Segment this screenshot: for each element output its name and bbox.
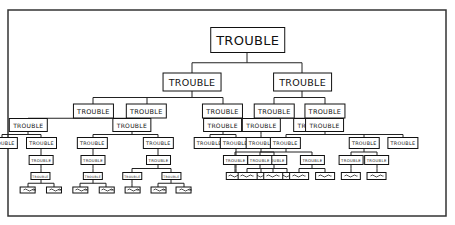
- trouble-node: TROUBLE: [73, 104, 113, 118]
- trouble-node-label: TROUBLE: [116, 122, 147, 129]
- trouble-node-label: TROUBLE: [168, 77, 216, 88]
- trouble-node: [125, 187, 140, 193]
- trouble-node: TROUBLE: [83, 173, 102, 180]
- trouble-node-label: TROUBLE: [308, 108, 342, 116]
- trouble-node-label: TROUBLE: [196, 141, 222, 146]
- trouble-node-label: TROUBLE: [162, 175, 179, 179]
- trouble-node: TROUBLE: [27, 138, 57, 149]
- trouble-node-label: TROUBLE: [340, 158, 361, 163]
- trouble-node: [341, 173, 360, 180]
- trouble-node: TROUBLE: [147, 156, 171, 165]
- trouble-node-label: TROUBLE: [272, 141, 298, 146]
- trouble-node: TROUBLE: [194, 138, 224, 149]
- trouble-node: TROUBLE: [306, 119, 344, 132]
- trouble-node-label: TROUBLE: [205, 108, 239, 116]
- trouble-node-label: TROUBLE: [248, 141, 274, 146]
- trouble-tree-diagram: TROUBLETROUBLETROUBLETROUBLETROUBLETROUB…: [0, 0, 455, 225]
- trouble-node: TROUBLE: [339, 156, 363, 165]
- trouble-node-label: TROUBLE: [249, 158, 270, 163]
- trouble-node: TROUBLE: [77, 138, 107, 149]
- trouble-node-label: TROUBLE: [31, 175, 48, 179]
- trouble-node-label: TROUBLE: [84, 175, 101, 179]
- trouble-node: TROUBLE: [202, 104, 242, 118]
- trouble-node: TROUBLE: [300, 156, 324, 165]
- trouble-node-label: TROUBLE: [308, 122, 339, 129]
- trouble-node-label: TROUBLE: [222, 141, 248, 146]
- trouble-node-label: TROUBLE: [224, 158, 245, 163]
- trouble-node: [20, 187, 35, 193]
- trouble-node-label: TROUBLE: [351, 141, 377, 146]
- trouble-node: TROUBLE: [123, 173, 142, 180]
- trouble-node: TROUBLE: [163, 73, 221, 91]
- trouble-node: TROUBLE: [29, 156, 53, 165]
- trouble-node: TROUBLE: [143, 138, 173, 149]
- trouble-node-label: TROUBLE: [145, 141, 171, 146]
- trouble-node: [46, 187, 61, 193]
- trouble-node: TROUBLE: [126, 104, 166, 118]
- trouble-node: TROUBLE: [270, 138, 300, 149]
- trouble-node: TROUBLE: [254, 104, 294, 118]
- trouble-node: TROUBLE: [162, 173, 181, 180]
- trouble-node-label: TROUBLE: [12, 122, 43, 129]
- trouble-node-label: TROUBLE: [30, 158, 51, 163]
- trouble-node-label: TROUBLE: [301, 158, 322, 163]
- trouble-node: TROUBLE: [223, 156, 247, 165]
- trouble-node: TROUBLE: [242, 119, 280, 132]
- trouble-node-label: TROUBLE: [245, 122, 276, 129]
- trouble-node: [176, 187, 191, 193]
- trouble-node-box: [290, 173, 309, 180]
- trouble-node-label: TROUBLE: [76, 108, 110, 116]
- trouble-node: [367, 173, 386, 180]
- trouble-node: TROUBLE: [274, 73, 332, 91]
- trouble-node: [99, 187, 114, 193]
- trouble-node: TROUBLE: [248, 156, 272, 165]
- trouble-node: TROUBLE: [305, 104, 345, 118]
- trouble-node: TROUBLE: [0, 138, 17, 149]
- trouble-node-label: TROUBLE: [82, 158, 103, 163]
- trouble-node-label: TROUBLE: [278, 77, 326, 88]
- trouble-node-label: TROUBLE: [0, 141, 15, 146]
- trouble-node-label: TROUBLE: [215, 33, 279, 48]
- trouble-node-label: TROUBLE: [129, 108, 163, 116]
- trouble-node: TROUBLE: [113, 119, 151, 132]
- trouble-node: [290, 173, 309, 180]
- trouble-node: [238, 173, 257, 180]
- trouble-node-label: TROUBLE: [206, 122, 237, 129]
- trouble-node: TROUBLE: [388, 138, 418, 149]
- trouble-node: [264, 173, 283, 180]
- trouble-node-box: [316, 173, 335, 180]
- trouble-node: TROUBLE: [31, 173, 50, 180]
- trouble-node: TROUBLE: [9, 119, 47, 132]
- trouble-node: TROUBLE: [365, 156, 389, 165]
- trouble-node-label: TROUBLE: [79, 141, 105, 146]
- trouble-node-label: TROUBLE: [28, 141, 54, 146]
- trouble-node-label: TROUBLE: [257, 108, 291, 116]
- trouble-node: TROUBLE: [204, 119, 242, 132]
- trouble-node: TROUBLE: [211, 28, 285, 53]
- trouble-node: TROUBLE: [81, 156, 105, 165]
- trouble-node-label: TROUBLE: [148, 158, 169, 163]
- trouble-node: [316, 173, 335, 180]
- trouble-node: [151, 187, 166, 193]
- trouble-node-label: TROUBLE: [366, 158, 387, 163]
- trouble-node: [73, 187, 88, 193]
- trouble-node-label: TROUBLE: [123, 175, 140, 179]
- trouble-node: TROUBLE: [349, 138, 379, 149]
- trouble-node-label: TROUBLE: [390, 141, 416, 146]
